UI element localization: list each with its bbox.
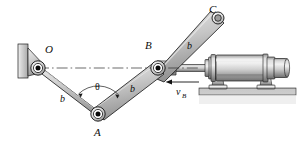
wall-support <box>18 44 28 78</box>
joint-a <box>91 107 105 121</box>
label-link-oa-length: b <box>60 93 65 104</box>
label-point-b: B <box>145 39 152 51</box>
ground-base <box>199 88 296 104</box>
label-velocity-subscript: B <box>182 92 187 100</box>
mechanism-diagram: O A B C b b b θ v B <box>0 0 300 142</box>
label-point-a: A <box>93 126 101 138</box>
label-angle-theta: θ <box>95 81 100 92</box>
pivot-o <box>31 61 45 75</box>
label-link-ab-length: b <box>130 83 135 94</box>
joint-b <box>151 61 165 75</box>
label-link-bc-length: b <box>187 40 192 51</box>
mechanism-figure: O A B C b b b θ v B <box>0 0 300 142</box>
velocity-arrow-vb <box>166 80 200 85</box>
label-point-c: C <box>209 3 217 15</box>
label-point-o: O <box>45 43 53 55</box>
label-velocity-vb: v <box>176 86 181 97</box>
